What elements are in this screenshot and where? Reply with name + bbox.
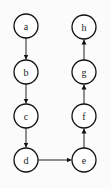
node-e: e [72, 148, 96, 172]
node-label: b [24, 67, 29, 78]
node-h: h [72, 15, 96, 39]
node-d: d [14, 148, 38, 172]
node-label: e [82, 155, 87, 166]
node-label: c [24, 111, 29, 122]
node-a: a [14, 14, 38, 38]
edges-layer [26, 38, 84, 160]
node-f: f [72, 104, 96, 128]
node-label: h [82, 22, 87, 33]
node-label: a [24, 21, 29, 32]
node-b: b [14, 60, 38, 84]
node-g: g [72, 60, 96, 84]
node-label: d [24, 155, 29, 166]
graph-diagram: abcdefgh [0, 0, 111, 188]
node-c: c [14, 104, 38, 128]
node-label: g [82, 67, 87, 78]
